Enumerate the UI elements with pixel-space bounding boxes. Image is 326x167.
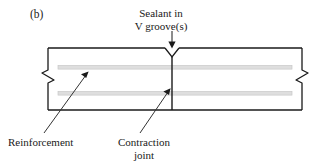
reinforcement-callout-label: Reinforcement <box>8 136 73 149</box>
contraction-joint-leader-line <box>140 92 168 133</box>
panel-letter-label: (b) <box>30 8 43 22</box>
contraction-joint-callout-line-1: Contraction <box>118 136 170 149</box>
contraction-joint-callout-line-2: joint <box>118 149 170 162</box>
contraction-joint-callout-label: Contraction joint <box>118 136 170 162</box>
slab-right-edge-break-symbol-icon <box>296 48 308 110</box>
reinforcement-leader-line <box>44 75 86 133</box>
v-groove-notch-icon <box>165 48 179 57</box>
sealant-callout-line-1: Sealant in <box>135 7 188 20</box>
sealant-callout-label: Sealant in V groove(s) <box>135 7 188 33</box>
reinforcement-bar-lower <box>58 92 292 96</box>
concrete-slab-contraction-joint-figure: (b) Sealant in V groove(s) Reinforcement… <box>0 0 326 167</box>
slab-left-edge-break-symbol-icon <box>42 48 54 110</box>
reinforcement-bar-upper <box>58 66 292 70</box>
sealant-leader-arrowhead-icon <box>168 42 175 49</box>
sealant-callout-line-2: V groove(s) <box>135 20 188 33</box>
